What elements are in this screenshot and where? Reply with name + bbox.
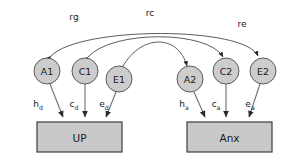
correlation-arc-re	[123, 42, 187, 66]
path-label-ed: ed	[99, 99, 109, 110]
path-label-hd: hd	[33, 99, 43, 110]
correlation-arc-labels: rg rc re	[69, 8, 247, 29]
loading-path-hd	[50, 84, 63, 117]
arc-label-rc: rc	[146, 8, 155, 18]
observed-box-label-anx: Anx	[219, 132, 239, 144]
path-label-cd: cd	[70, 99, 79, 110]
path-label-ha: ha	[179, 99, 189, 110]
path-diagram: rg rc re hd cd ed ha	[0, 0, 294, 162]
latent-label-c1: C1	[79, 66, 92, 77]
observed-box-label-up: UP	[72, 132, 86, 144]
correlation-arc-rc	[88, 37, 223, 57]
path-coefficient-labels: hd cd ed ha ca ea	[33, 99, 255, 110]
latent-label-c2: C2	[220, 66, 233, 77]
observed-variables-group: UP Anx	[37, 122, 272, 152]
path-label-ea: ea	[245, 99, 255, 110]
latent-label-e2: E2	[257, 66, 269, 77]
path-label-ca: ca	[212, 99, 221, 110]
loading-path-ha	[194, 92, 205, 117]
latent-label-a2: A2	[184, 74, 197, 85]
arc-label-rg: rg	[69, 12, 78, 22]
loading-paths-group	[50, 84, 260, 117]
arc-label-re: re	[237, 19, 247, 29]
latent-variables-group: A1 C1 E1 A2 C2 E2	[34, 58, 276, 92]
latent-label-e1: E1	[113, 74, 125, 85]
diagram-canvas: rg rc re hd cd ed ha	[0, 0, 294, 162]
latent-label-a1: A1	[41, 66, 54, 77]
